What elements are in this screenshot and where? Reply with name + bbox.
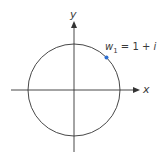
x-axis-arrow-icon — [133, 87, 140, 93]
y-axis-label: y — [70, 9, 77, 20]
y-axis-arrow-icon — [71, 21, 77, 28]
x-axis-label: x — [143, 84, 150, 95]
complex-plane-figure — [0, 0, 161, 159]
point-w1 — [105, 56, 109, 60]
label-imag: i — [154, 41, 157, 52]
label-var: w — [105, 41, 113, 52]
label-rest: = 1 + — [118, 41, 154, 52]
point-w1-label: w1 = 1 + i — [105, 42, 156, 55]
